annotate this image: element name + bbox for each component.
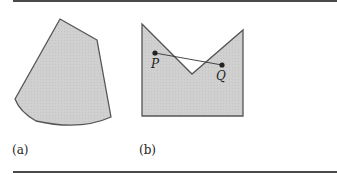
caption-b: (b) xyxy=(139,143,156,157)
bottom-rule xyxy=(13,171,337,173)
convex-region xyxy=(15,19,111,125)
point-q xyxy=(219,62,224,67)
point-q-label: Q xyxy=(216,69,226,83)
point-p xyxy=(152,50,157,55)
figure-canvas xyxy=(0,0,337,174)
point-p-label: P xyxy=(151,57,159,71)
caption-a: (a) xyxy=(12,143,29,157)
